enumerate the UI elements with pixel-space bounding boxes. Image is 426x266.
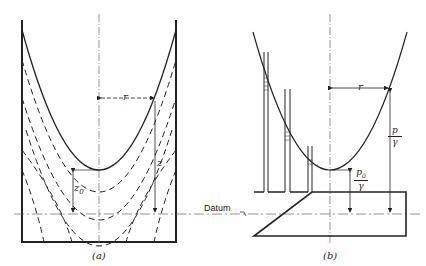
datum-label: Datum [204, 203, 231, 213]
p0-subscript: 0 [362, 172, 366, 179]
p0-over-gamma-label: p0 γ [354, 168, 368, 191]
gamma0-denominator: γ [358, 181, 363, 191]
piezometer-tubes [264, 52, 312, 192]
gamma-denominator: γ [392, 137, 397, 147]
p-numerator: p [392, 125, 398, 135]
dashed-surfaces-a [22, 60, 176, 246]
caption-a: (a) [92, 250, 106, 261]
p-over-gamma-label: p γ [388, 126, 402, 147]
z0-label: z0 [74, 183, 84, 196]
z0-subscript: 0 [79, 188, 83, 196]
z-label-a: z [157, 158, 162, 168]
r-label-b: r [358, 82, 363, 92]
caption-b: (b) [323, 250, 337, 261]
diagram-canvas [0, 0, 426, 266]
r-label-a: r [123, 92, 128, 102]
